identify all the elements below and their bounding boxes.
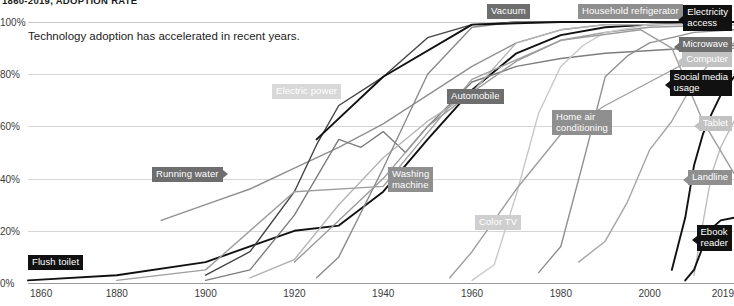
right-label-social-media-usage[interactable]: Social media usage <box>670 70 732 96</box>
series-line-vacuum <box>250 25 734 278</box>
inline-label-electric-power[interactable]: Electric power <box>272 84 341 99</box>
right-label-landline[interactable]: Landline <box>688 170 732 185</box>
inline-label-household-refrigerator[interactable]: Household refrigerator <box>578 4 683 19</box>
series-line-electric-power <box>206 22 734 275</box>
right-label-ebook-reader[interactable]: Ebook reader <box>697 225 732 251</box>
right-label-notch <box>678 16 683 24</box>
series-line-landline <box>117 30 734 281</box>
right-label-electricity-access[interactable]: Electricity access <box>683 5 732 31</box>
inline-label-running-water[interactable]: Running water <box>152 167 223 182</box>
plot-area <box>0 0 734 306</box>
right-label-notch <box>677 58 682 66</box>
inline-label-flush-toilet[interactable]: Flush toilet <box>28 255 83 270</box>
technology-adoption-chart: 1860-2019, ADOPTION RATE Technology adop… <box>0 0 734 306</box>
inline-label-washing-machine[interactable]: Washing machine <box>388 167 433 192</box>
right-label-notch <box>665 81 670 89</box>
inline-label-color-tv[interactable]: Color TV <box>475 215 521 230</box>
series-line-household-refrigerator <box>317 22 734 278</box>
inline-label-automobile[interactable]: Automobile <box>447 89 504 104</box>
right-label-computer[interactable]: Computer <box>682 52 732 67</box>
right-label-notch <box>674 43 679 51</box>
right-label-notch <box>683 176 688 184</box>
series-line-running-water <box>161 22 734 220</box>
inline-label-home-air-conditioning[interactable]: Home air conditioning <box>552 110 612 135</box>
right-label-notch <box>692 236 697 244</box>
series-line-flush-toilet <box>28 22 734 280</box>
inline-label-vacuum[interactable]: Vacuum <box>487 4 530 19</box>
right-label-tablet[interactable]: Tablet <box>699 116 732 131</box>
right-label-notch <box>694 122 699 130</box>
right-label-microwave[interactable]: Microwave <box>679 37 732 52</box>
series-line-automobile <box>206 46 734 281</box>
